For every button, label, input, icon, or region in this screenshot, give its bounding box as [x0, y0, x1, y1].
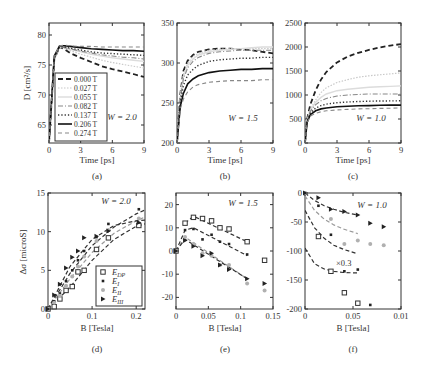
axes-frame: [305, 193, 401, 309]
x-tick-label: 6: [110, 145, 114, 155]
panel-label-d: (d): [92, 344, 103, 354]
legend-entry: 0.082 T: [74, 102, 98, 111]
annotation: W = 2.0: [107, 112, 137, 122]
legend-a: 0.000 T0.027 T0.055 T0.082 T0.137 T0.206…: [55, 73, 107, 141]
marker-diamond: [82, 254, 86, 258]
x-tick-label: 0: [47, 145, 51, 155]
marker-small: [219, 240, 222, 243]
panel-label-f: (f): [349, 344, 358, 354]
axes-frame: [177, 23, 273, 143]
y-tick-label: -20: [162, 292, 173, 302]
ylabel-d: Δσ [microS]: [18, 230, 28, 275]
marker-small: [210, 233, 213, 236]
panel-f-conductance-w1: B [Tesla] (f): [336, 323, 369, 354]
marker-small: [201, 238, 204, 241]
marker-square: [356, 301, 360, 305]
marker-diamond: [245, 281, 249, 285]
y-tick-label: 250: [161, 98, 174, 108]
xlabel-b: Time [ps]: [208, 155, 243, 165]
x-tick-label: 0.1: [235, 311, 246, 321]
marker-small: [138, 208, 141, 211]
y-tick-label: 2000: [285, 42, 302, 52]
x-tick-label: 6: [239, 145, 243, 155]
series-line: [305, 101, 401, 143]
xlabel-d: B [Tesla]: [80, 323, 113, 333]
marker-diamond: [137, 217, 141, 221]
x-tick-label: 3: [207, 145, 211, 155]
marker-diamond: [329, 217, 333, 221]
x-tick-label: 3: [79, 145, 83, 155]
y-tick-label: 350: [161, 18, 174, 28]
fit-line: [305, 210, 358, 254]
marker-triangle: [329, 207, 334, 212]
marker-small: [77, 259, 80, 262]
annotation: W = 1.5: [228, 198, 258, 208]
marker-square: [218, 226, 222, 230]
marker-triangle: [70, 255, 75, 260]
x-tick-label: 0.01: [394, 311, 409, 321]
y-tick-label: -50: [291, 217, 302, 227]
panel-label-b: (b): [220, 171, 231, 181]
y-tick-label: 65: [38, 120, 47, 130]
marker-square: [191, 215, 195, 219]
x-tick-label: 0: [175, 145, 179, 155]
marker-square: [227, 227, 231, 231]
marker-small: [357, 268, 360, 271]
y-tick-label: 300: [161, 58, 174, 68]
plot-content: 036965707580W = 2.00369200250300350W = 1…: [37, 18, 409, 321]
y-tick-label: -10: [162, 269, 173, 279]
series-line: [305, 108, 401, 143]
x-tick-label: 9: [142, 145, 146, 155]
panel-label-c: (c): [348, 171, 358, 181]
panel-e-conductance-w15: B [Tesla] (e): [208, 323, 241, 354]
y-tick-label: 0: [169, 246, 173, 256]
xlabel-a: Time [ps]: [80, 155, 115, 165]
legend-entry: 0.055 T: [74, 93, 98, 102]
x-tick-label: 9: [399, 145, 403, 155]
marker-small: [317, 204, 320, 207]
marker-small: [65, 280, 68, 283]
annotation: W = 1.5: [228, 113, 258, 123]
marker-triangle: [368, 221, 373, 226]
y-tick-label: 75: [38, 60, 47, 70]
marker-diamond: [263, 288, 267, 292]
y-tick-label: 0: [298, 138, 302, 148]
legend-d: EDPEIEIIEIII: [96, 266, 142, 306]
marker-triangle: [263, 281, 268, 286]
plot-c: 036905001000150020002500W = 1.0: [285, 18, 403, 155]
series-line: [305, 105, 401, 143]
x-tick-label: 9: [271, 145, 275, 155]
y-tick-label: 2500: [285, 18, 302, 28]
marker-diamond: [64, 284, 68, 288]
marker-square: [76, 270, 80, 274]
marker-triangle: [76, 249, 81, 254]
marker-diamond: [368, 242, 372, 246]
marker-triangle: [82, 235, 87, 240]
x-tick-label: 0.05: [201, 311, 216, 321]
xlabel-e: B [Tesla]: [208, 323, 241, 333]
y-tick-label: -100: [286, 246, 302, 256]
fit-line: [305, 196, 358, 234]
marker-square: [70, 284, 74, 288]
figure: D [cm²/s] Time [ps] (a) Time [ps] (b) Ti…: [0, 0, 425, 371]
legend-entry: 0.027 T: [74, 84, 98, 93]
marker-small: [71, 269, 74, 272]
plot-e: 00.050.10.15-20-1001020W = 1.5: [162, 193, 281, 321]
x-tick-label: 0: [46, 311, 50, 321]
marker-square: [106, 236, 110, 240]
marker-diamond: [342, 242, 346, 246]
y-tick-label: 15: [37, 188, 46, 198]
marker-diamond: [52, 301, 56, 305]
marker-diamond: [70, 275, 74, 279]
xlabel-c: Time [ps]: [336, 155, 371, 165]
marker-triangle: [356, 213, 361, 218]
marker-square: [64, 288, 68, 292]
x-tick-label: 0.2: [131, 311, 142, 321]
marker-square: [329, 269, 333, 273]
marker-diamond: [76, 264, 80, 268]
annotation: W = 1.0: [357, 200, 387, 210]
marker-square: [245, 240, 249, 244]
marker-diamond: [356, 239, 360, 243]
marker-small: [107, 223, 110, 226]
y-tick-label: 1000: [285, 90, 302, 100]
